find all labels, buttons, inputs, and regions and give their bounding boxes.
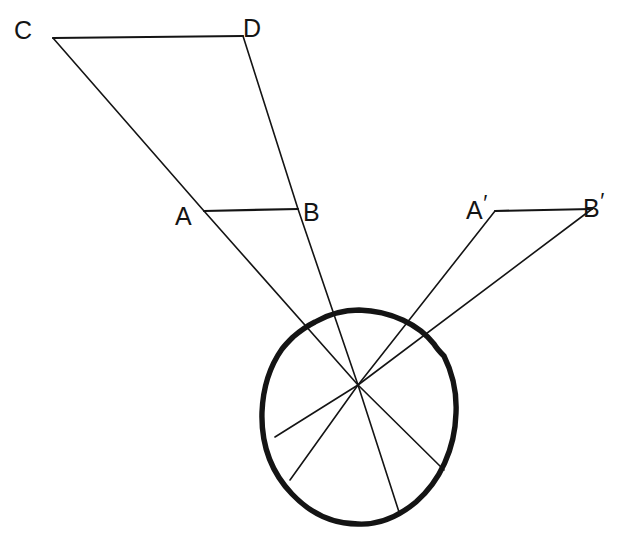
figure-canvas: C D A B A′ B′ [0, 0, 632, 543]
segment-aprime-bprime [495, 209, 592, 211]
label-point-a-text: A [175, 202, 192, 230]
label-point-b: B [303, 194, 320, 225]
rays-group [53, 36, 592, 512]
segment-cd [53, 36, 243, 38]
eyeball-outline [262, 310, 456, 524]
label-point-b-prime-text: B [583, 194, 600, 222]
ray-aprime-through-nodal [290, 211, 495, 480]
label-point-a: A [175, 198, 192, 229]
label-point-c: C [14, 12, 33, 43]
label-point-b-text: B [303, 198, 320, 226]
ray-c-through-nodal [53, 38, 444, 470]
label-point-d: D [243, 10, 262, 41]
label-point-c-text: C [14, 16, 33, 44]
ray-bprime-through-nodal [275, 209, 592, 437]
label-point-a-prime-text: A [466, 196, 483, 224]
eye-ray-diagram [0, 0, 632, 543]
label-point-a-prime: A′ [466, 192, 487, 223]
label-point-b-prime-mark: ′ [600, 188, 604, 213]
object-segments-group [53, 36, 592, 211]
label-point-d-text: D [243, 14, 262, 42]
cornea-accent [430, 340, 444, 357]
label-point-b-prime: B′ [583, 190, 604, 221]
segment-ab [204, 209, 298, 211]
label-point-a-prime-mark: ′ [483, 190, 487, 215]
